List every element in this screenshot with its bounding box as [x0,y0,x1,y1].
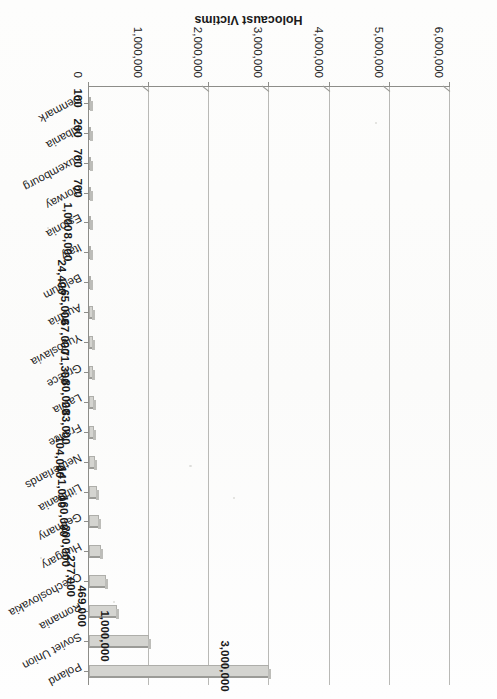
value-axis-label: 5,000,000 [373,27,385,78]
bar [89,217,91,230]
bar [89,306,93,319]
data-value-label: 1,000,000 [99,611,111,662]
bar [89,396,94,409]
bar-row [89,509,450,535]
category-axis-tick [84,342,89,343]
bar-row [89,151,450,177]
value-axis-tick [449,82,450,87]
bar [89,127,91,140]
category-axis-tick [84,522,89,523]
bar-row [89,91,450,117]
scanned-figure-page: Figure 60. Where the Axe Fell in the Hol… [0,0,497,699]
category-axis-tick [84,282,89,283]
bar [89,276,91,289]
bar [89,486,97,499]
category-axis-tick [84,312,89,313]
bar-row [89,240,450,266]
category-axis-tick [84,402,89,403]
category-axis-tick [84,641,89,642]
category-axis-tick [84,372,89,373]
bar [89,456,95,469]
figure-caption: Figure 60. Where the Axe Fell in the Hol… [0,281,2,581]
bar-row [89,629,450,655]
value-axis-tick [208,82,209,87]
bar-row [89,569,450,595]
data-value-label: 3,000,000 [219,640,231,691]
data-value-label: 700 [72,178,84,197]
category-axis-tick [84,252,89,253]
data-value-label: 469,000 [77,585,89,627]
data-value-label: 71,300 [59,349,71,384]
data-value-label: 24,400 [56,260,68,295]
scan-speck [375,122,377,124]
category-axis-tick [84,581,89,582]
scan-speck [189,465,192,467]
category-axis-tick [84,671,89,672]
bar-row [89,390,450,416]
category-axis-tick [84,462,89,463]
value-axis-tick [88,82,89,87]
value-axis-label: 2,000,000 [192,27,204,78]
bar-row [89,210,450,236]
category-axis-tick [84,551,89,552]
plot-area [89,87,450,685]
bar-row [89,450,450,476]
value-axis-tick [269,82,270,87]
bar [89,516,99,529]
bar-row [89,121,450,147]
bar-row [89,420,450,446]
bar-row [89,300,450,326]
bar-row [89,330,450,356]
bar [89,366,93,379]
value-axis-tick [389,82,390,87]
bar [89,426,94,439]
bar-row [89,270,450,296]
value-axis-label: 6,000,000 [433,27,445,78]
category-axis-tick [84,492,89,493]
bar [89,157,91,170]
bar-row [89,599,450,625]
value-axis-label: 3,000,000 [253,27,265,78]
bar-row [89,539,450,565]
bar-row [89,479,450,505]
data-value-label: 700 [72,148,84,167]
data-value-label: 200 [72,118,84,137]
scan-speck [47,227,49,229]
data-value-label: 100 [72,88,84,107]
value-axis-label: 1,000,000 [132,27,144,78]
category-axis-tick [84,133,89,134]
bar [89,545,101,558]
data-value-label: 1,000 [62,203,74,232]
value-axis-label: 4,000,000 [313,27,325,78]
scan-speck [113,601,115,603]
data-value-label: 65,000 [59,290,71,325]
bar [89,575,106,588]
bar [89,246,91,259]
scan-speck [233,497,235,499]
data-value-label: 67,000 [59,320,71,355]
category-axis-tick [84,163,89,164]
category-axis-tick [84,193,89,194]
bar [89,665,270,678]
category-axis-tick [84,103,89,104]
bar-row [89,659,450,685]
axis-title: Holocaust Victims [0,13,497,27]
value-axis-label: 0 [72,72,84,78]
scan-speck [40,557,42,559]
category-axis-tick [84,432,89,433]
value-axis-tick [148,82,149,87]
data-value-label: 8,000 [62,233,74,262]
bar [89,187,91,200]
bar-row [89,180,450,206]
bar-row [89,360,450,386]
bar [89,97,91,110]
bar [89,336,93,349]
value-axis-tick [329,82,330,87]
category-axis-tick [84,223,89,224]
